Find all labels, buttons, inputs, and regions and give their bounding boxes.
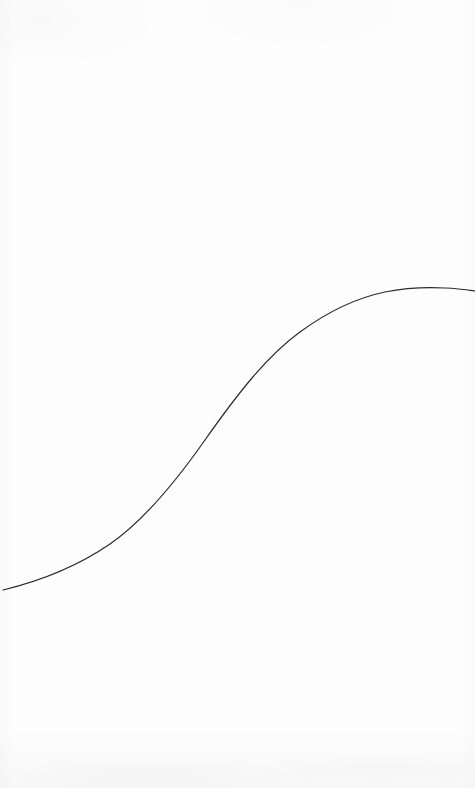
figure-page xyxy=(0,0,475,788)
sigmoid-curve-line xyxy=(3,288,475,590)
line-chart-plot xyxy=(0,0,475,788)
